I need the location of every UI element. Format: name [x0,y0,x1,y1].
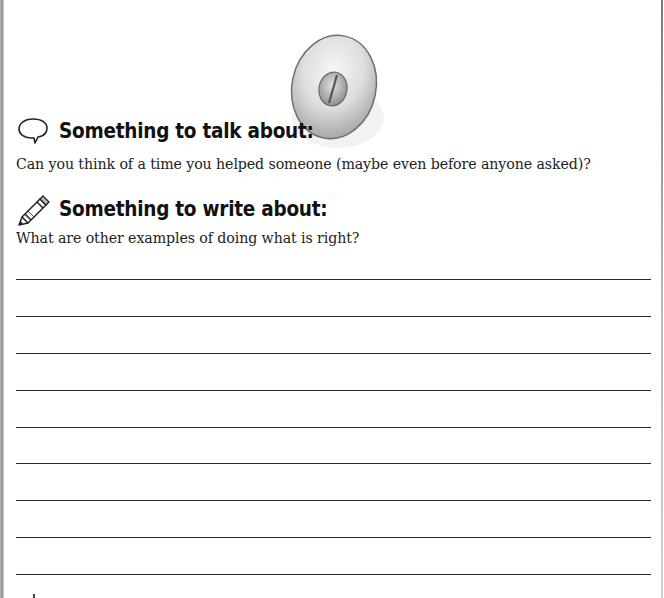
page-left-border [0,0,4,598]
talk-heading-text: Something to talk about: [59,119,314,143]
writing-line-6[interactable] [16,463,651,464]
talk-heading: Something to talk about: [16,116,348,146]
bottom-mark [33,594,35,598]
writing-line-7[interactable] [16,500,651,501]
writing-line-1[interactable] [16,279,651,280]
talk-prompt: Can you think of a time you helped someo… [16,156,591,172]
write-prompt: What are other examples of doing what is… [16,230,359,246]
write-heading: Something to write about: [16,194,364,224]
writing-line-9[interactable] [16,574,651,575]
writing-line-4[interactable] [16,390,651,391]
writing-line-5[interactable] [16,427,651,428]
page-right-border [661,0,663,598]
pencil-icon [16,194,50,224]
write-heading-text: Something to write about: [59,197,327,221]
writing-line-8[interactable] [16,537,651,538]
speech-bubble-icon [16,116,50,146]
writing-line-2[interactable] [16,316,651,317]
writing-line-3[interactable] [16,353,651,354]
